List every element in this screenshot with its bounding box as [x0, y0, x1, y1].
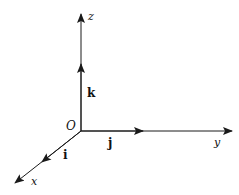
j-vector-label: j — [108, 137, 112, 149]
i-vector — [42, 131, 81, 162]
i-vector-label: i — [63, 149, 68, 161]
y-axis-label: y — [214, 137, 220, 148]
origin-label: O — [66, 120, 76, 132]
axes-drawing — [0, 0, 239, 195]
coordinate-axes-diagram: z k O j y i x — [0, 0, 239, 195]
x-axis-label: x — [31, 176, 37, 187]
k-vector-label: k — [87, 87, 95, 99]
z-axis-label: z — [88, 11, 94, 22]
